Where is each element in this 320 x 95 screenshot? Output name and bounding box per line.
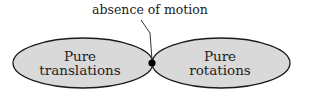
right-label-line1: Pure: [170, 49, 270, 63]
left-label-line2: translations: [30, 63, 130, 77]
origin-dot: [148, 59, 155, 66]
right-label-line2: rotations: [170, 63, 270, 77]
absence-of-motion-label: absence of motion: [90, 3, 210, 17]
pure-translations-label: Pure translations: [30, 49, 130, 77]
pure-rotations-label: Pure rotations: [170, 49, 270, 77]
left-label-line1: Pure: [30, 49, 130, 63]
